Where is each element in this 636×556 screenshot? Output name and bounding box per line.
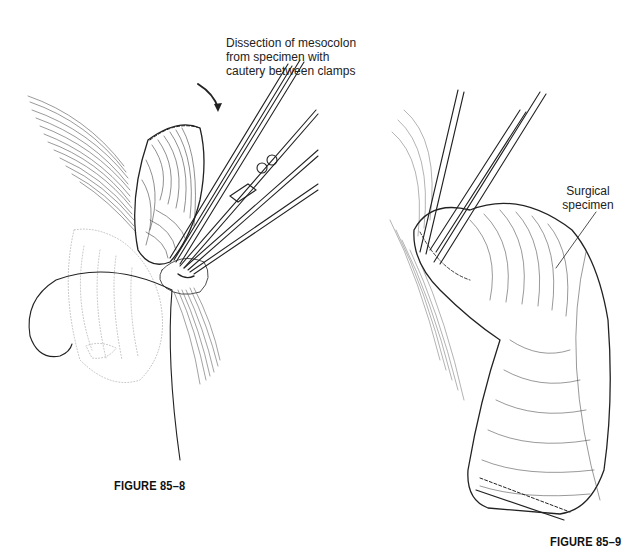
figure-85-9-illustration (390, 90, 610, 520)
surgical-clamps-right (420, 90, 546, 264)
dissection-annotation: Dissection of mesocolon from specimen wi… (226, 36, 366, 78)
mesentery-fan-lower (174, 288, 220, 384)
colon-loop (135, 125, 204, 264)
mesentery-fan-upper (28, 96, 136, 232)
specimen-annotation: Surgical specimen (560, 184, 616, 212)
dissection-annotation-line-3: cautery between clamps (226, 64, 366, 78)
specimen-annotation-line-1: Surgical (560, 184, 616, 198)
figure-caption-85-9: FIGURE 85–9 (550, 534, 621, 549)
illustration-canvas (0, 0, 636, 556)
colon-specimen (414, 203, 610, 520)
figure-85-8-illustration (28, 60, 318, 460)
specimen-annotation-line-2: specimen (560, 198, 616, 212)
mesentery-fan-right (390, 110, 464, 400)
suture-thread (29, 272, 180, 460)
cautery-site (160, 258, 208, 294)
dissection-annotation-line-2: from specimen with (226, 50, 366, 64)
dissection-annotation-line-1: Dissection of mesocolon (226, 36, 366, 50)
surgical-clamps (170, 60, 318, 274)
stippled-bowel (68, 229, 162, 382)
figure-caption-85-8: FIGURE 85–8 (114, 478, 185, 493)
